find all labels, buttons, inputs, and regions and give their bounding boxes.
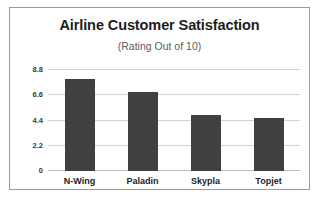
plot-wrapper: 02.24.46.68.8 N-WingPaladinSkyplaTopjet bbox=[10, 8, 309, 189]
chart-frame: Airline Customer Satisfaction (Rating Ou… bbox=[9, 7, 310, 190]
x-axis-category-label: Paladin bbox=[111, 176, 174, 186]
x-axis-category-label: Topjet bbox=[237, 176, 300, 186]
x-axis-category-label: N-Wing bbox=[48, 176, 111, 186]
y-axis-tick-label: 0 bbox=[39, 166, 43, 175]
y-axis-tick-label: 4.4 bbox=[33, 115, 43, 124]
bars-group: N-WingPaladinSkyplaTopjet bbox=[48, 70, 300, 171]
y-axis-tick-label: 8.8 bbox=[33, 65, 43, 74]
bar-group: Skypla bbox=[174, 70, 237, 171]
bar bbox=[128, 92, 158, 171]
bar-group: Paladin bbox=[111, 70, 174, 171]
bar bbox=[65, 79, 95, 171]
y-axis-tick-label: 2.2 bbox=[33, 140, 43, 149]
y-axis-tick-label: 6.6 bbox=[33, 90, 43, 99]
bar-group: N-Wing bbox=[48, 70, 111, 171]
plot-area: 02.24.46.68.8 N-WingPaladinSkyplaTopjet bbox=[48, 70, 300, 171]
x-axis-category-label: Skypla bbox=[174, 176, 237, 186]
bar bbox=[191, 115, 221, 171]
bar bbox=[254, 118, 284, 171]
bar-group: Topjet bbox=[237, 70, 300, 171]
